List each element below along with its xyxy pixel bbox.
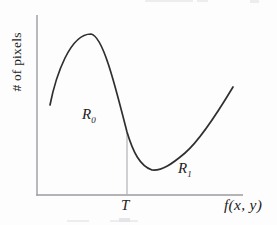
- region-0-label: R0: [82, 107, 96, 125]
- cropped-text-artifact-bottom: [119, 218, 130, 222]
- region-1-label: R1: [178, 161, 192, 179]
- cropped-text-artifact-top: [197, 0, 208, 2]
- cropped-text-artifact-top: [250, 0, 259, 3]
- y-axis-label: # of pixels: [9, 26, 25, 98]
- cropped-text-artifact-bottom: [67, 220, 89, 222]
- histogram-threshold-figure: # of pixels R0 R1 T f(x, y): [0, 0, 277, 225]
- x-axis-label: f(x, y): [224, 197, 262, 213]
- threshold-label: T: [121, 198, 129, 213]
- plot-canvas: [0, 0, 277, 225]
- histogram-curve: [50, 34, 233, 170]
- cropped-text-artifact-top: [145, 0, 193, 2]
